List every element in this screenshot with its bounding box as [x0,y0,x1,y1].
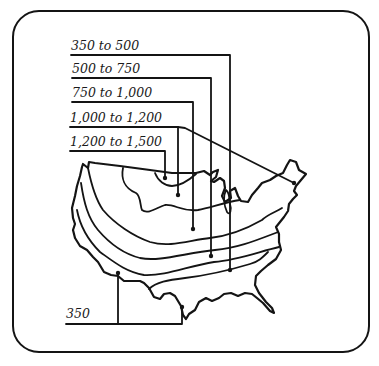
label-500-to-750: 500 to 750 [72,61,140,76]
label-1000-to-1200: 1,000 to 1,200 [70,110,162,125]
label-350-to-500: 350 to 500 [71,38,139,53]
label-350: 350 [66,306,90,321]
leader-500-to-750 [72,78,211,256]
leader-dots [116,176,296,309]
map-diagram: 350 to 500 500 to 750 750 to 1,000 1,000… [0,0,379,366]
contour-lines [77,168,282,289]
label-750-to-1000: 750 to 1,000 [72,85,152,100]
diagram-frame [13,11,369,352]
label-1200-to-1500: 1,200 to 1,500 [70,134,162,149]
